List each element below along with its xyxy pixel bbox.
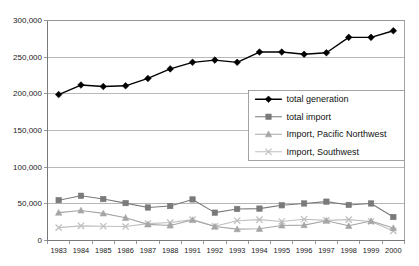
y-axis-label: 300,000 [13, 16, 42, 25]
line-chart: 050,000100,000150,000200,000250,000300,0… [0, 0, 419, 266]
x-axis-label-1993: 1993 [229, 246, 245, 255]
chart-container: 050,000100,000150,000200,000250,000300,0… [0, 0, 419, 266]
data-point-square-marker [212, 210, 217, 215]
x-axis-label-1991: 1991 [184, 246, 200, 255]
x-axis-label-2000: 2000 [385, 246, 401, 255]
data-point-square-marker [257, 206, 262, 211]
x-axis-label-1987: 1987 [140, 246, 156, 255]
data-point-square-marker [368, 201, 373, 206]
data-point-square-marker [78, 193, 83, 198]
y-axis-label: 150,000 [13, 126, 42, 135]
data-point-square-marker [279, 203, 284, 208]
data-point-diamond-marker [278, 49, 285, 56]
x-axis-label-1998: 1998 [340, 246, 356, 255]
data-point-diamond-marker [189, 59, 196, 66]
y-axis-tickmarks [44, 21, 48, 241]
data-point-square-marker [190, 197, 195, 202]
y-axis-label: 250,000 [13, 53, 42, 62]
x-axis-label-1986: 1986 [117, 246, 133, 255]
series-total-generation [55, 27, 396, 97]
data-point-square-marker [234, 206, 239, 211]
x-axis-label-1999: 1999 [363, 246, 379, 255]
y-axis-label: 0 [38, 236, 43, 245]
data-point-diamond-marker [234, 59, 241, 66]
data-point-square-marker [101, 196, 106, 201]
x-axis-label-1983: 1983 [50, 246, 66, 255]
y-axis-label: 100,000 [13, 163, 42, 172]
data-point-square-marker [168, 203, 173, 208]
x-axis-label-1984: 1984 [73, 246, 89, 255]
data-point-square-marker [301, 201, 306, 206]
data-point-diamond-marker [368, 34, 375, 41]
data-point-diamond-marker [100, 83, 107, 90]
data-point-diamond-marker [167, 66, 174, 73]
data-point-diamond-marker [78, 82, 85, 89]
y-axis-label: 200,000 [13, 89, 42, 98]
legend-label: total generation [287, 94, 349, 104]
data-point-square-marker [346, 202, 351, 207]
x-axis-label-1994: 1994 [251, 246, 267, 255]
data-point-diamond-marker [256, 49, 263, 56]
series-line [59, 31, 394, 95]
chart-legend[interactable]: total generationtotal importImport, Paci… [249, 91, 405, 161]
y-axis-tick-labels: 050,000100,000150,000200,000250,000300,0… [13, 16, 42, 245]
y-axis-label: 50,000 [18, 199, 43, 208]
data-point-square-marker [324, 199, 329, 204]
legend-label: total import [287, 112, 332, 122]
x-axis-label-1988: 1988 [162, 246, 178, 255]
data-point-square-marker [266, 114, 271, 119]
data-point-diamond-marker [145, 75, 152, 82]
data-point-diamond-marker [301, 51, 308, 58]
data-point-diamond-marker [122, 82, 129, 89]
data-point-diamond-marker [55, 91, 62, 98]
x-axis-label-1997: 1997 [318, 246, 334, 255]
x-axis-tickmarks [48, 241, 405, 244]
data-point-square-marker [145, 205, 150, 210]
data-point-square-marker [56, 197, 61, 202]
legend-label: Import, Pacific Northwest [287, 129, 388, 139]
legend-label: Import, Southwest [287, 147, 360, 157]
series-line [59, 196, 394, 217]
x-axis-tick-labels: 1983198419851986198719881991199219931994… [50, 246, 401, 255]
data-point-square-marker [123, 200, 128, 205]
series-total-import [56, 193, 396, 220]
x-axis-label-1995: 1995 [274, 246, 290, 255]
x-axis-label-1996: 1996 [296, 246, 312, 255]
data-point-square-marker [391, 214, 396, 219]
data-point-diamond-marker [390, 27, 397, 34]
x-axis-label-1992: 1992 [207, 246, 223, 255]
x-axis-label-1985: 1985 [95, 246, 111, 255]
data-point-diamond-marker [212, 57, 219, 64]
